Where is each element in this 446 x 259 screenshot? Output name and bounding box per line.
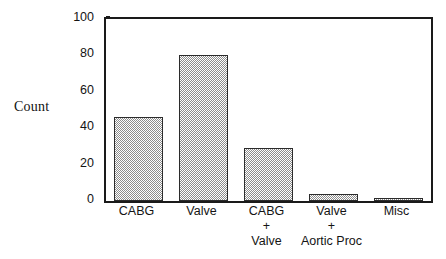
y-axis-tick-label: 100	[60, 10, 94, 24]
bar	[374, 198, 423, 201]
x-axis-tick-label: CABG	[104, 204, 169, 219]
y-axis-tick-label: 20	[60, 156, 94, 170]
x-axis-tick-label: Valve	[169, 204, 234, 219]
x-axis-tick-label: Valve + Aortic Proc	[299, 204, 364, 249]
y-axis-tick-label: 0	[60, 192, 94, 206]
plot-area	[104, 17, 433, 203]
y-axis-tick-label: 80	[60, 46, 94, 60]
bar	[309, 194, 358, 201]
y-axis-label: Count	[14, 99, 49, 115]
bar	[114, 117, 163, 201]
x-axis-tick-label: CABG + Valve	[234, 204, 299, 249]
bar	[244, 148, 293, 201]
bar	[179, 55, 228, 201]
bar-chart-figure: Count 020406080100 CABGValveCABG + Valve…	[0, 0, 446, 259]
y-axis-tick-label: 60	[60, 83, 94, 97]
x-axis-tick-label: Misc	[364, 204, 429, 219]
y-axis-tick-label: 40	[60, 119, 94, 133]
